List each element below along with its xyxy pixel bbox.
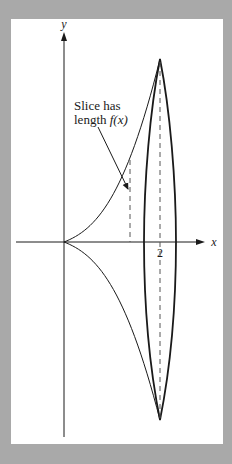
- curve-lower: [64, 242, 160, 420]
- y-axis-label: y: [60, 17, 67, 31]
- curve-upper: [64, 59, 160, 242]
- cross-section-ellipse: [144, 59, 176, 420]
- annotation-line-1: Slice has: [74, 98, 121, 113]
- solid-of-revolution-diagram: y x 2 Slice has length f(x): [0, 0, 232, 464]
- x-axis-label: x: [210, 235, 217, 249]
- x-axis-arrow-icon: [196, 239, 205, 245]
- annotation-line-2: length f(x): [74, 112, 128, 127]
- annotation-pointer: [98, 127, 128, 189]
- y-axis-arrow-icon: [61, 32, 67, 41]
